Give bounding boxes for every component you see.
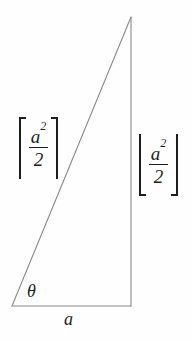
fraction-numerator: a2	[30, 127, 48, 147]
ceiling-close-bracket-icon	[51, 117, 58, 179]
fraction-denominator: 2	[153, 165, 165, 186]
floor-open-bracket-icon	[139, 134, 146, 196]
numerator-exponent: 2	[160, 136, 166, 150]
ceiling-open-bracket-icon	[19, 117, 26, 179]
fraction-a-squared-over-two: a2 2	[146, 143, 171, 188]
floor-close-bracket-icon	[171, 134, 178, 196]
ceiling-expression-label: a2 2	[19, 117, 58, 179]
fraction-denominator: 2	[33, 148, 45, 169]
fraction-numerator: a2	[150, 144, 168, 164]
figure-canvas: a2 2 a2 2 θ a	[0, 0, 191, 340]
numerator-base: a	[151, 143, 161, 164]
numerator-exponent: 2	[40, 119, 46, 133]
angle-theta-label: θ	[27, 282, 36, 300]
numerator-base: a	[31, 126, 41, 147]
floor-expression-label: a2 2	[139, 134, 178, 196]
fraction-a-squared-over-two: a2 2	[26, 126, 51, 171]
base-length-label: a	[64, 310, 73, 328]
